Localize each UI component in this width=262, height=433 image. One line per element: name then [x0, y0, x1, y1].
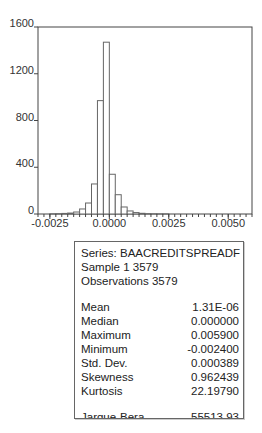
stat-row-std-dev: Std. Dev.0.000389	[75, 356, 243, 370]
histogram-bar	[97, 101, 103, 214]
histogram-bar	[80, 209, 86, 214]
stat-row-minimum: Minimum-0.002400	[75, 342, 243, 356]
stat-row-mean: Mean1.31E-06	[75, 300, 243, 314]
histogram-bar	[68, 213, 74, 214]
y-tick-label: 1600	[4, 17, 34, 29]
histogram-plot-area	[0, 0, 262, 235]
y-tick-label: 400	[4, 157, 34, 169]
y-tick-label: 800	[4, 111, 34, 123]
x-tick-label: 0.0025	[144, 217, 194, 229]
x-tick-label: 0.0050	[203, 217, 253, 229]
descriptive-statistics-box: Series: BAACREDITSPREADF Sample 1 3579 O…	[74, 241, 244, 419]
histogram-bar	[127, 211, 133, 214]
plot-frame	[38, 27, 252, 214]
stat-row-jarque-bera: Jarque-Bera55513.93	[75, 410, 243, 419]
histogram-bar	[92, 184, 98, 214]
histogram-bar	[139, 213, 145, 214]
histogram-chart: 040080012001600 -0.00250.00000.00250.005…	[0, 0, 262, 235]
x-tick-label: -0.0025	[25, 217, 75, 229]
histogram-bar	[115, 195, 121, 214]
observations-count: Observations 3579	[75, 274, 243, 288]
histogram-bar	[121, 207, 127, 214]
y-tick-label: 0	[4, 204, 34, 216]
histogram-bar	[133, 213, 139, 214]
stat-row-maximum: Maximum0.005900	[75, 328, 243, 342]
x-tick-label: 0.0000	[84, 217, 134, 229]
stat-row-kurtosis: Kurtosis22.19790	[75, 384, 243, 398]
stat-row-median: Median0.000000	[75, 314, 243, 328]
histogram-bar	[86, 203, 92, 214]
histogram-bar	[103, 42, 109, 214]
sample-range: Sample 1 3579	[75, 260, 243, 274]
series-name: Series: BAACREDITSPREADF	[75, 242, 243, 260]
stat-row-skewness: Skewness0.962439	[75, 370, 243, 384]
y-tick-label: 1200	[4, 64, 34, 76]
histogram-bar	[74, 212, 80, 214]
histogram-bar	[109, 174, 115, 214]
histogram-bar	[62, 213, 68, 214]
